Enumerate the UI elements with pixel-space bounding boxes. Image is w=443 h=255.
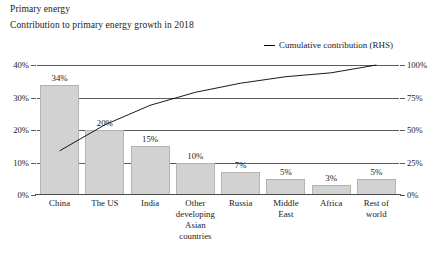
y-tick-label-right: 100% — [407, 61, 427, 70]
x-axis-baseline — [35, 194, 401, 195]
y-tick-label-left: 10% — [13, 159, 29, 168]
bar-slot: 5% — [263, 65, 308, 195]
bar-value-label: 3% — [309, 174, 354, 183]
y-tick-left — [31, 130, 36, 131]
plot-area: 0%10%20%30%40% 0%25%50%75%100% 34%20%15%… — [37, 65, 399, 195]
bar-slot: 10% — [173, 65, 218, 195]
x-axis-label: India — [128, 198, 173, 242]
bar-value-label: 7% — [218, 161, 263, 170]
x-axis-label: Other developing Asian countries — [173, 198, 218, 242]
bar-value-label: 15% — [128, 135, 173, 144]
x-axis-label: Rest of world — [354, 198, 399, 242]
bar — [266, 179, 305, 195]
legend-label-cumulative: Cumulative contribution (RHS) — [279, 40, 393, 50]
bar — [176, 163, 215, 196]
bar-slot: 7% — [218, 65, 263, 195]
y-tick-left — [31, 65, 36, 66]
x-axis-label: Middle East — [263, 198, 308, 242]
bar — [131, 146, 170, 195]
y-tick-label-left: 0% — [18, 191, 29, 200]
y-tick-left — [31, 195, 36, 196]
bar-value-label: 5% — [354, 168, 399, 177]
y-tick-label-right: 0% — [407, 191, 418, 200]
bar-slot: 34% — [37, 65, 82, 195]
y-tick-right — [400, 65, 405, 66]
x-axis-label: China — [37, 198, 82, 242]
bar-value-label: 34% — [37, 74, 82, 83]
page-subtitle: Contribution to primary energy growth in… — [10, 20, 194, 30]
bar-slot: 3% — [309, 65, 354, 195]
y-tick-right — [400, 163, 405, 164]
bar-slot: 5% — [354, 65, 399, 195]
y-tick-label-right: 25% — [407, 159, 423, 168]
y-tick-right — [400, 98, 405, 99]
y-tick-label-left: 30% — [13, 94, 29, 103]
bar — [221, 172, 260, 195]
page-title: Primary energy — [10, 4, 70, 14]
x-axis-label: Russia — [218, 198, 263, 242]
y-tick-right — [400, 130, 405, 131]
bar-slot: 15% — [128, 65, 173, 195]
bar-value-label: 20% — [82, 119, 127, 128]
bar — [85, 130, 124, 195]
chart-legend: Cumulative contribution (RHS) — [264, 40, 393, 50]
y-tick-label-left: 20% — [13, 126, 29, 135]
bar — [40, 85, 79, 196]
x-axis-label: Africa — [309, 198, 354, 242]
y-tick-label-right: 75% — [407, 94, 423, 103]
bar — [357, 179, 396, 195]
y-tick-left — [31, 98, 36, 99]
x-axis-labels: ChinaThe USIndiaOther developing Asian c… — [37, 198, 399, 242]
bar-series: 34%20%15%10%7%5%3%5% — [37, 65, 399, 195]
y-tick-label-left: 40% — [13, 61, 29, 70]
y-tick-label-right: 50% — [407, 126, 423, 135]
y-tick-right — [400, 195, 405, 196]
bar-value-label: 10% — [173, 152, 218, 161]
line-dash-icon — [264, 45, 275, 46]
x-axis-label: The US — [82, 198, 127, 242]
bar-slot: 20% — [82, 65, 127, 195]
bar-value-label: 5% — [263, 168, 308, 177]
y-tick-left — [31, 163, 36, 164]
